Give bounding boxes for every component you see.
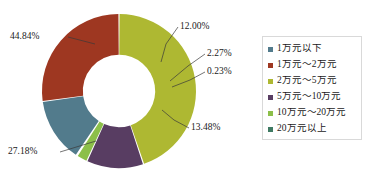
legend-swatch-icon-5 [268,127,273,132]
donut-slice-5[interactable] [42,14,119,101]
pct-label-0-23: 0.23% [207,66,232,76]
legend-item-2[interactable]: 2万元～5万元 [268,73,358,89]
donut-slices [42,14,196,168]
legend-item-4[interactable]: 10万元～20万元 [268,105,358,121]
pct-label-44-84: 44.84% [10,31,39,41]
pct-label-12-00: 12.00% [180,21,209,31]
legend-swatch-icon-0 [268,47,273,52]
chart-legend: 1万元以下 1万元～2万元 2万元～5万元 5万元～10万元 10万元～20万元… [262,36,362,140]
pct-label-2-27: 2.27% [207,48,232,58]
legend-item-0[interactable]: 1万元以下 [268,41,358,57]
legend-label-5: 20万元以上 [277,124,327,134]
legend-swatch-icon-4 [268,111,273,116]
legend-label-0: 1万元以下 [277,44,322,54]
legend-item-1[interactable]: 1万元～2万元 [268,57,358,73]
legend-label-4: 10万元～20万元 [277,108,346,118]
legend-swatch-icon-3 [268,95,273,100]
pct-label-27-18: 27.18% [8,146,37,156]
pct-label-13-48: 13.48% [191,122,220,132]
legend-label-3: 5万元～10万元 [277,92,341,102]
legend-swatch-icon-2 [268,79,273,84]
legend-label-1: 1万元～2万元 [277,60,337,70]
legend-label-2: 2万元～5万元 [277,76,337,86]
legend-item-3[interactable]: 5万元～10万元 [268,89,358,105]
legend-item-5[interactable]: 20万元以上 [268,121,358,137]
legend-swatch-icon-1 [268,63,273,68]
donut-chart: 44.84% 27.18% 12.00% 2.27% 0.23% 13.48% … [0,0,366,179]
